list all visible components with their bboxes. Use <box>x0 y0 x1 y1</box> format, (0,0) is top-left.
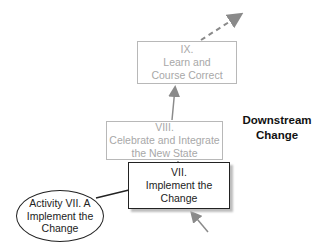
step-vii-box: VII. Implement the Change <box>128 162 230 209</box>
step-ix-numeral: IX. <box>138 43 236 56</box>
step-viii-title-line: the New State <box>107 147 222 160</box>
step-ix-title-line: Course Correct <box>138 69 236 82</box>
step-vii-title-line: Implement the <box>129 179 229 192</box>
arrow-viii-to-ix <box>172 88 175 120</box>
step-ix-title-line: Learn and <box>138 56 236 69</box>
phase-label: Downstream Change <box>237 113 317 143</box>
activity-ellipse: Activity VII. A Implement the Change <box>16 190 104 242</box>
activity-line: Implement the <box>17 210 103 223</box>
activity-line: Change <box>17 222 103 235</box>
step-ix-box: IX. Learn and Course Correct <box>137 41 237 84</box>
step-viii-title-line: Celebrate and Integrate <box>107 134 222 147</box>
step-vii-title-line: Change <box>129 192 229 205</box>
step-viii-numeral: VIII. <box>107 121 222 134</box>
arrow-incoming-to-vii <box>192 213 208 232</box>
step-viii-box: VIII. Celebrate and Integrate the New St… <box>106 121 223 160</box>
arrow-ix-to-next <box>201 15 240 40</box>
phase-label-line: Downstream <box>237 113 317 128</box>
activity-line: Activity VII. A <box>17 197 103 210</box>
phase-label-line: Change <box>237 128 317 143</box>
step-vii-numeral: VII. <box>129 166 229 179</box>
